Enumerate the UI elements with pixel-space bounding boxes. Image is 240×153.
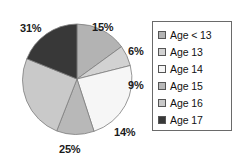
legend-swatch-icon (158, 31, 166, 39)
legend-label: Age 17 (170, 114, 203, 126)
legend-item-age-under-13[interactable]: Age < 13 (158, 26, 231, 43)
legend-item-age-15[interactable]: Age 15 (158, 77, 231, 94)
legend-label: Age 14 (170, 63, 203, 75)
pie-plot-area: 15% 6% 9% 14% 25% 31% (6, 12, 146, 150)
legend-label: Age 15 (170, 80, 203, 92)
pie-svg (18, 20, 136, 138)
legend-item-age-16[interactable]: Age 16 (158, 94, 231, 111)
legend-label: Age < 13 (170, 29, 212, 41)
chart-title-remnant (0, 0, 240, 5)
legend-swatch-icon (158, 82, 166, 90)
legend-label: Age 13 (170, 46, 203, 58)
legend-swatch-icon (158, 99, 166, 107)
legend-swatch-icon (158, 65, 166, 73)
legend-item-age-17[interactable]: Age 17 (158, 111, 231, 128)
slice-label-age-16: 25% (59, 143, 80, 153)
slice-label-age-under-13: 15% (92, 21, 113, 33)
legend-swatch-icon (158, 48, 166, 56)
legend-label: Age 16 (170, 97, 203, 109)
pie-chart-figure: 15% 6% 9% 14% 25% 31% Age < 13 Age 13 Ag… (0, 0, 240, 153)
slice-label-age-15: 14% (114, 126, 135, 138)
chart-legend: Age < 13 Age 13 Age 14 Age 15 Age 16 Age… (152, 21, 232, 131)
legend-item-age-13[interactable]: Age 13 (158, 43, 231, 60)
legend-swatch-icon (158, 116, 166, 124)
slice-label-age-14: 9% (128, 79, 144, 91)
slice-label-age-17: 31% (20, 22, 41, 34)
slice-label-age-13: 6% (128, 45, 144, 57)
legend-item-age-14[interactable]: Age 14 (158, 60, 231, 77)
